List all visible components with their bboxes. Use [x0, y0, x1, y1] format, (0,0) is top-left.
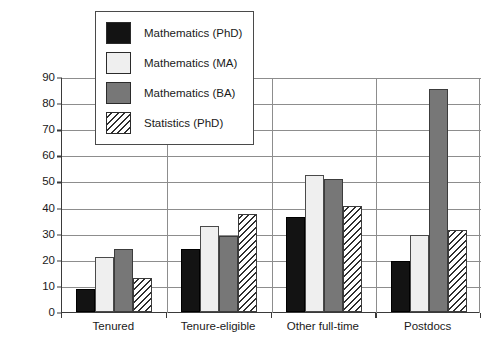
bar-tenured-statistics-phd[interactable] [133, 278, 152, 312]
bar-group-postdocs [376, 77, 481, 312]
bar-tenured-mathematics-ma[interactable] [95, 257, 114, 312]
bar-chart-figure: Percentage of Women 0102030405060708090 … [0, 0, 500, 354]
bar-tenured-mathematics-phd[interactable] [76, 289, 95, 313]
legend-item-mathematics-ba[interactable]: Mathematics (BA) [106, 81, 235, 105]
bar-tenure-eligible-statistics-phd[interactable] [238, 214, 257, 312]
legend-swatch-icon [106, 22, 131, 44]
bar-postdocs-mathematics-phd[interactable] [391, 261, 410, 312]
bar-tenured-mathematics-ba[interactable] [114, 249, 133, 312]
x-tick-mark-4 [480, 313, 481, 318]
legend-item-statistics-phd[interactable]: Statistics (PhD) [106, 111, 223, 135]
x-tick-mark-3 [375, 313, 376, 318]
x-tick-mark-2 [271, 313, 272, 318]
x-tick-label-postdocs: Postdocs [358, 320, 498, 333]
y-tick-label-90: 90 [21, 72, 62, 83]
legend-swatch-icon [106, 52, 131, 74]
legend-label: Mathematics (PhD) [144, 27, 242, 39]
y-tick-label-70: 70 [21, 124, 62, 135]
legend-label: Mathematics (BA) [144, 87, 235, 99]
legend-label: Mathematics (MA) [144, 57, 237, 69]
legend-label: Statistics (PhD) [144, 117, 223, 129]
bar-other-full-time-mathematics-ma[interactable] [305, 175, 324, 312]
chart-legend: Mathematics (PhD)Mathematics (MA)Mathema… [95, 11, 254, 145]
bar-postdocs-mathematics-ba[interactable] [429, 89, 448, 312]
bar-tenure-eligible-mathematics-ba[interactable] [219, 236, 238, 312]
bar-other-full-time-mathematics-phd[interactable] [286, 217, 305, 312]
bar-other-full-time-mathematics-ba[interactable] [324, 179, 343, 312]
legend-swatch-icon [106, 112, 131, 134]
x-tick-mark-1 [166, 313, 167, 318]
y-tick-label-0: 0 [21, 307, 62, 318]
y-tick-label-20: 20 [21, 255, 62, 266]
x-tick-mark-0 [61, 313, 62, 318]
y-tick-label-80: 80 [21, 98, 62, 109]
y-tick-label-30: 30 [21, 229, 62, 240]
legend-item-mathematics-ma[interactable]: Mathematics (MA) [106, 51, 237, 75]
legend-swatch-icon [106, 82, 131, 104]
bar-other-full-time-statistics-phd[interactable] [343, 206, 362, 312]
bar-postdocs-statistics-phd[interactable] [448, 230, 467, 312]
bar-postdocs-mathematics-ma[interactable] [410, 235, 429, 312]
legend-item-mathematics-phd[interactable]: Mathematics (PhD) [106, 21, 242, 45]
bar-tenure-eligible-mathematics-ma[interactable] [200, 226, 219, 312]
y-tick-label-40: 40 [21, 203, 62, 214]
bar-tenure-eligible-mathematics-phd[interactable] [181, 249, 200, 312]
bar-group-other-full-time [272, 77, 377, 312]
y-tick-label-60: 60 [21, 150, 62, 161]
y-tick-label-10: 10 [21, 281, 62, 292]
y-tick-label-50: 50 [21, 176, 62, 187]
